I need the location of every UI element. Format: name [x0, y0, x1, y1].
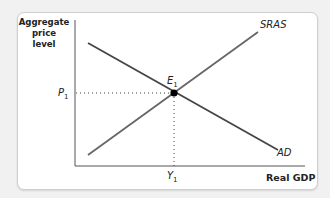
- y-axis-label: Aggregate price level: [18, 16, 70, 49]
- equilibrium-label: E1: [167, 75, 178, 89]
- output-label: Y1: [167, 170, 178, 184]
- equilibrium-point: [170, 89, 177, 96]
- sras-label: SRAS: [260, 19, 286, 30]
- ad-label: AD: [277, 147, 292, 158]
- price-label: P1: [58, 87, 69, 101]
- x-axis-label: Real GDP: [266, 172, 315, 183]
